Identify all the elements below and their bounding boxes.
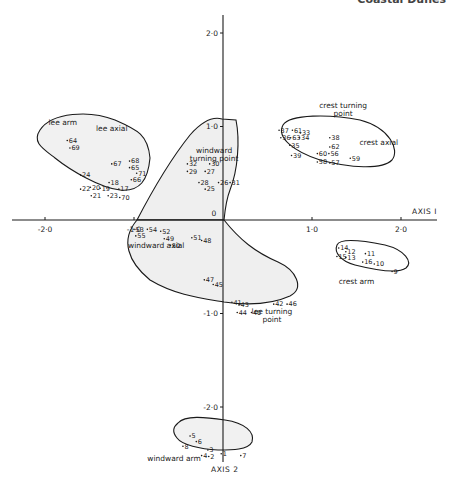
point-label: 47: [206, 276, 214, 284]
group-label: point: [262, 315, 281, 324]
point-label: 66: [133, 176, 141, 184]
point-label: 45: [215, 281, 223, 289]
point-label: 36: [282, 134, 290, 142]
point-label: 6: [198, 438, 202, 446]
point-label: 23: [110, 192, 118, 200]
point-label: 34: [301, 134, 309, 142]
point-label: 57: [331, 159, 339, 167]
group-label: point: [334, 109, 353, 118]
point-label: 42: [275, 300, 283, 308]
axis-1-title: AXIS I: [412, 207, 437, 216]
point-label: 13: [347, 254, 355, 262]
point-label: 40: [253, 309, 261, 317]
point-label: 55: [137, 232, 145, 240]
point-label: 54: [149, 226, 157, 234]
point-label: 27: [207, 168, 215, 176]
point-label: 10: [376, 260, 384, 268]
point-label: 24: [82, 171, 90, 179]
axis-2-title: AXIS 2: [211, 465, 238, 474]
point-label: 70: [121, 194, 129, 202]
point-label: 69: [71, 144, 79, 152]
point-label: 22: [82, 185, 90, 193]
point-label: 58: [319, 158, 327, 166]
point-label: 9: [394, 268, 398, 276]
y-tick-label: -1·0: [203, 309, 218, 318]
y-tick-label: 2·0: [206, 29, 218, 38]
point-label: 16: [364, 258, 372, 266]
group-label: lee axial: [96, 124, 128, 133]
point-label: 38: [331, 134, 339, 142]
point-label: 60: [319, 150, 327, 158]
y-tick-label: 1·0: [206, 122, 218, 131]
point-label: 35: [291, 142, 299, 150]
point-label: 48: [203, 237, 211, 245]
group-label: lee arm: [49, 118, 78, 127]
y-tick-label: -2·0: [203, 403, 218, 412]
x-tick-label: 1·0: [306, 225, 318, 234]
point-label: 39: [293, 152, 301, 160]
group-label: windward arm: [147, 454, 200, 463]
point-label: 25: [207, 185, 215, 193]
point-label: 46: [289, 300, 297, 308]
point-label: 67: [113, 160, 121, 168]
point-label: 1: [223, 450, 227, 458]
group-label: crest arm: [339, 277, 375, 286]
point-label: 56: [330, 150, 338, 158]
point-label: 20: [92, 184, 100, 192]
point-label: 51: [193, 234, 201, 242]
point-label: 4: [203, 452, 207, 460]
point-label: 31: [232, 179, 240, 187]
x-tick-label: -2·0: [38, 225, 53, 234]
point-label: 18: [111, 179, 119, 187]
point-label: 8: [184, 443, 188, 451]
point-label: 2: [210, 453, 214, 461]
point-label: 5: [192, 432, 196, 440]
point-label: 7: [242, 452, 246, 460]
point-label: 29: [189, 168, 197, 176]
point-label: 59: [352, 155, 360, 163]
point-label: 11: [367, 250, 375, 258]
group-label: crest axial: [359, 138, 398, 147]
x-tick-label: 0: [212, 209, 217, 218]
point-label: 44: [239, 309, 247, 317]
point-label: 21: [93, 192, 101, 200]
point-label: 26: [220, 179, 228, 187]
ordination-diagram: -2·0-1·001·02·0 2·01·0-1·0-2·0 AXIS I AX…: [0, 0, 452, 484]
x-tick-label: 2·0: [395, 225, 407, 234]
point-label: 50: [172, 242, 180, 250]
point-label: 17: [120, 185, 128, 193]
